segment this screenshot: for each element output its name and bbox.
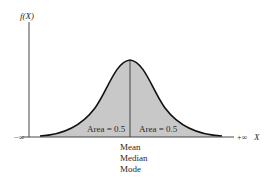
mean-label: Mean	[120, 142, 141, 152]
x-axis-label: X	[254, 132, 260, 142]
x-right-label: +∞	[237, 133, 247, 143]
area-under-curve	[40, 60, 222, 137]
right-area-label: Area = 0.5	[139, 124, 177, 134]
mode-label: Mode	[120, 164, 141, 174]
left-area-label: Area = 0.5	[87, 124, 125, 134]
x-left-label: −∞	[14, 133, 24, 143]
median-label: Median	[120, 153, 148, 163]
y-axis-label: f(X)	[20, 11, 34, 21]
